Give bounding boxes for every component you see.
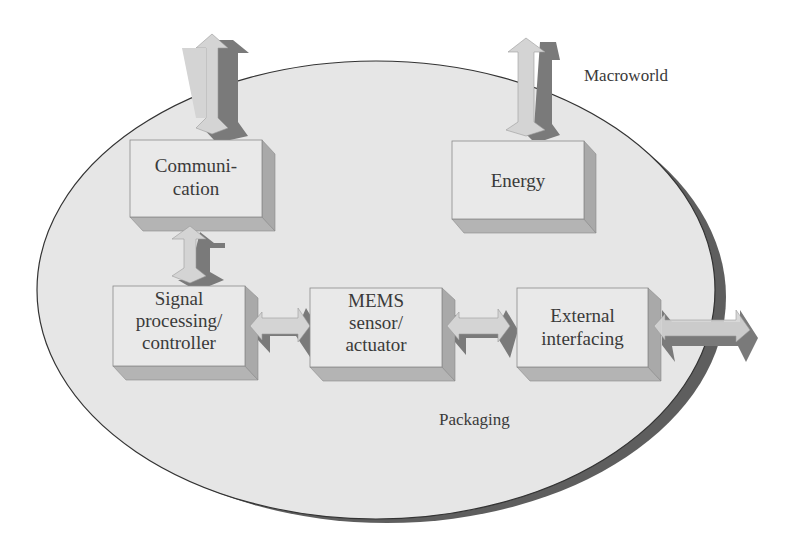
label-signal-line-3: controller <box>113 332 245 354</box>
mems-diagram <box>0 0 792 548</box>
label-external: External interfacing <box>517 305 648 351</box>
label-signal: Signal processing/ controller <box>113 288 245 354</box>
label-mems-line-1: MEMS <box>310 290 442 312</box>
label-macroworld: Macroworld <box>584 66 668 86</box>
label-communication-line-2: cation <box>130 178 262 201</box>
label-mems-line-2: sensor/ <box>310 312 442 334</box>
label-energy: Energy <box>452 170 584 193</box>
label-communication: Communi- cation <box>130 155 262 201</box>
label-external-line-1: External <box>517 305 648 328</box>
label-communication-line-1: Communi- <box>130 155 262 178</box>
label-energy-line-1: Energy <box>452 170 584 193</box>
label-external-line-2: interfacing <box>517 328 648 351</box>
label-mems: MEMS sensor/ actuator <box>310 290 442 356</box>
label-packaging: Packaging <box>439 410 510 430</box>
label-signal-line-2: processing/ <box>113 310 245 332</box>
label-signal-line-1: Signal <box>113 288 245 310</box>
label-mems-line-3: actuator <box>310 334 442 356</box>
